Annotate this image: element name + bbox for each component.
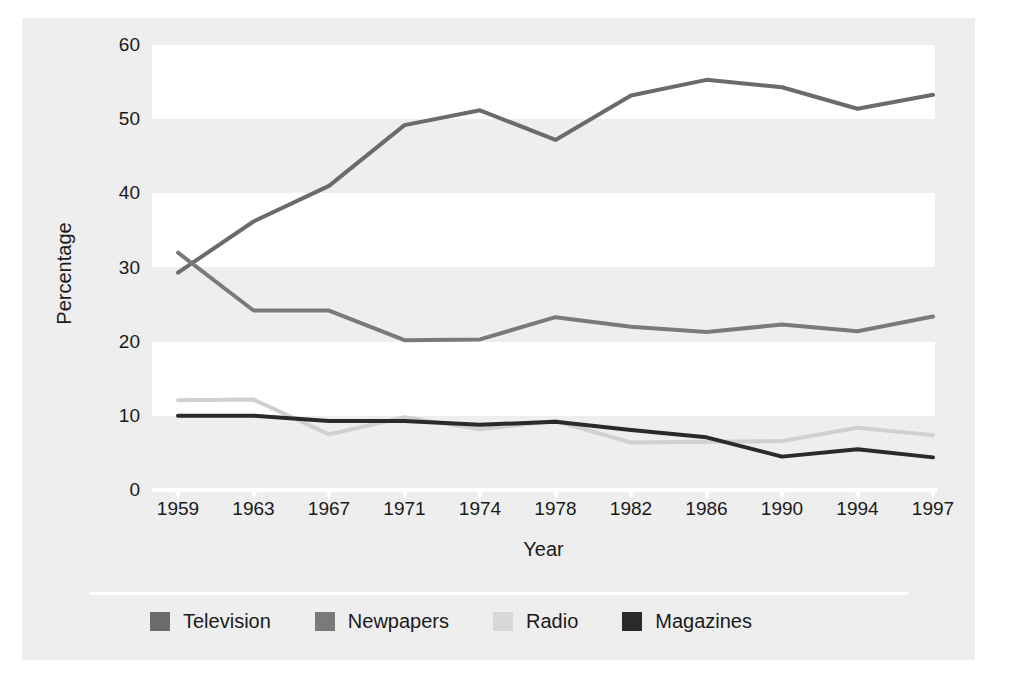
x-tick-label: 1994 <box>836 498 878 520</box>
chart-legend: TelevisionNewpapersRadioMagazines <box>150 606 796 636</box>
legend-label: Television <box>183 610 271 633</box>
x-tick-label: 1990 <box>761 498 803 520</box>
legend-item-radio[interactable]: Radio <box>493 610 578 633</box>
x-tick-label: 1982 <box>610 498 652 520</box>
y-tick-label: 40 <box>94 183 140 202</box>
legend-swatch-icon <box>493 612 513 631</box>
x-tick-label: 1971 <box>383 498 425 520</box>
plot-area <box>152 45 935 490</box>
x-tick-label: 1967 <box>308 498 350 520</box>
y-axis-title: Percentage <box>53 194 76 354</box>
series-line-television <box>178 80 933 273</box>
legend-swatch-icon <box>622 612 642 631</box>
chart-figure: 0102030405060 19591963196719711974197819… <box>0 0 1009 677</box>
legend-swatch-icon <box>315 612 335 631</box>
x-tick-label: 1986 <box>685 498 727 520</box>
y-axis-tick-labels: 0102030405060 <box>78 45 140 490</box>
y-tick-label: 10 <box>94 406 140 425</box>
x-tick-label: 1974 <box>459 498 501 520</box>
legend-label: Radio <box>526 610 578 633</box>
x-axis-tick-labels: 1959196319671971197419781982198619901994… <box>152 498 935 526</box>
legend-item-television[interactable]: Television <box>150 610 271 633</box>
series-line-magazines <box>178 416 933 458</box>
series-line-newpapers <box>178 253 933 341</box>
x-axis-title: Year <box>152 538 935 561</box>
y-tick-label: 50 <box>94 109 140 128</box>
x-tick-label: 1963 <box>232 498 274 520</box>
chart-lines <box>152 45 935 490</box>
x-tick-label: 1997 <box>912 498 954 520</box>
legend-swatch-icon <box>150 612 170 631</box>
legend-item-magazines[interactable]: Magazines <box>622 610 752 633</box>
legend-item-newpapers[interactable]: Newpapers <box>315 610 449 633</box>
y-tick-label: 30 <box>94 258 140 277</box>
y-tick-label: 0 <box>94 480 140 499</box>
y-tick-label: 20 <box>94 332 140 351</box>
legend-separator <box>90 592 908 595</box>
x-tick-label: 1959 <box>157 498 199 520</box>
legend-label: Magazines <box>655 610 752 633</box>
x-tick-label: 1978 <box>534 498 576 520</box>
legend-label: Newpapers <box>348 610 449 633</box>
y-tick-label: 60 <box>94 35 140 54</box>
